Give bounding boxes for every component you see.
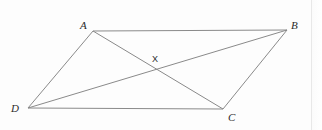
page-edge-shadow bbox=[312, 0, 322, 130]
segment-AC-diagonal bbox=[93, 31, 223, 109]
vertex-label-D: D bbox=[11, 103, 19, 114]
segment-BC bbox=[223, 30, 287, 109]
segment-DB-diagonal bbox=[28, 30, 287, 108]
parallelogram-figure bbox=[0, 0, 322, 130]
segments-group bbox=[28, 30, 287, 109]
segment-DA bbox=[28, 31, 93, 108]
segment-AB bbox=[93, 30, 287, 31]
segment-CD bbox=[28, 108, 223, 109]
intersection-label-X: X bbox=[152, 55, 158, 64]
geometry-diagram-canvas: A B C D X bbox=[0, 0, 322, 130]
vertex-label-B: B bbox=[291, 20, 298, 31]
vertex-label-C: C bbox=[228, 112, 235, 123]
vertex-label-A: A bbox=[80, 20, 87, 31]
